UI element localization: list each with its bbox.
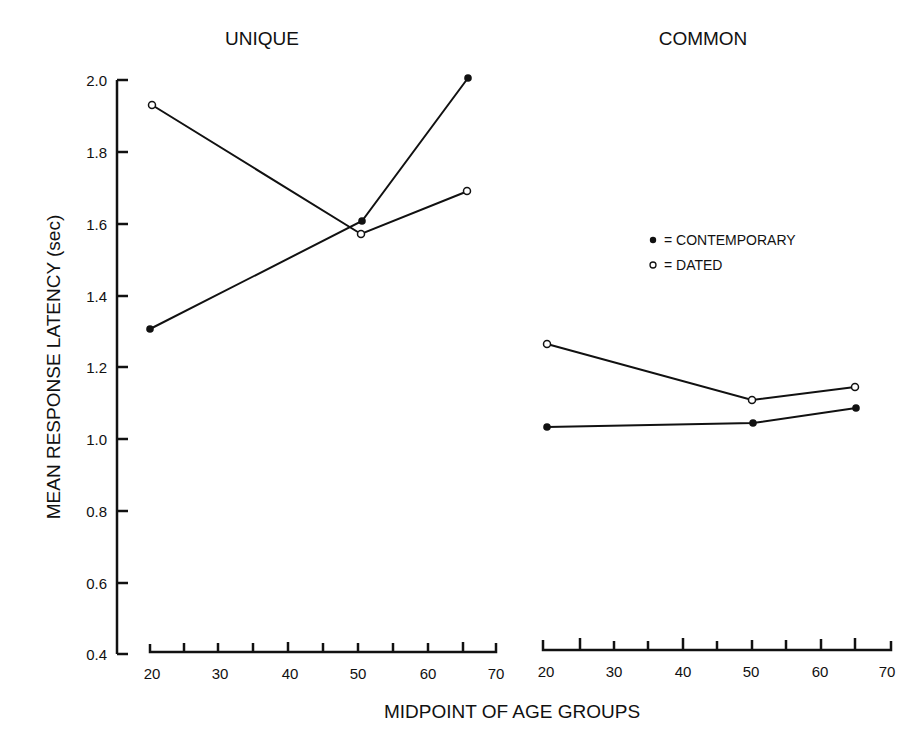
- x-tick-labels-common: 20 30 40 50 60 70: [538, 663, 896, 680]
- y-tick-label: 0.4: [86, 646, 107, 663]
- data-point: [852, 404, 860, 412]
- x-tick-labels-unique: 20 30 40 50 60 70: [144, 665, 505, 682]
- series-unique-contemporary: [146, 74, 472, 333]
- x-tick-label: 50: [350, 665, 367, 682]
- x-axis-common: [543, 638, 891, 650]
- legend-label-dated: = DATED: [664, 257, 722, 273]
- x-tick-label: 60: [420, 665, 437, 682]
- series-unique-dated: [149, 102, 471, 238]
- y-tick-label: 2.0: [86, 72, 107, 89]
- y-tick-label: 1.0: [86, 431, 107, 448]
- open-circle-icon: [650, 262, 656, 268]
- filled-circle-icon: [650, 237, 656, 243]
- data-point: [543, 423, 551, 431]
- legend-label-contemporary: = CONTEMPORARY: [664, 232, 796, 248]
- y-tick-label: 0.8: [86, 503, 107, 520]
- data-point: [749, 419, 757, 427]
- y-axis-label: MEAN RESPONSE LATENCY (sec): [43, 215, 64, 519]
- x-tick-label: 20: [144, 665, 161, 682]
- x-tick-label: 60: [812, 663, 829, 680]
- y-tick-label: 1.4: [86, 288, 107, 305]
- data-point: [358, 231, 365, 238]
- y-tick-labels: 2.0 1.8 1.6 1.4 1.2 1.0 0.8 0.6 0.4: [86, 72, 107, 663]
- x-tick-label: 40: [675, 663, 692, 680]
- x-axis-unique: [150, 642, 496, 652]
- panel-title-unique: UNIQUE: [225, 28, 299, 49]
- data-point: [852, 384, 859, 391]
- y-tick-label: 0.6: [86, 575, 107, 592]
- data-point: [149, 102, 156, 109]
- data-point: [146, 325, 154, 333]
- x-tick-label: 20: [538, 663, 555, 680]
- x-axis-label: MIDPOINT OF AGE GROUPS: [384, 701, 640, 722]
- x-tick-label: 30: [606, 663, 623, 680]
- data-point: [464, 74, 472, 82]
- series-common-contemporary: [543, 404, 860, 431]
- x-tick-label: 70: [879, 663, 896, 680]
- x-tick-label: 70: [488, 665, 505, 682]
- panel-title-common: COMMON: [659, 28, 748, 49]
- x-tick-label: 50: [743, 663, 760, 680]
- y-tick-label: 1.6: [86, 216, 107, 233]
- data-point: [544, 341, 551, 348]
- legend: = CONTEMPORARY = DATED: [650, 232, 796, 273]
- data-point: [358, 217, 366, 225]
- x-tick-label: 30: [212, 665, 229, 682]
- y-tick-label: 1.8: [86, 144, 107, 161]
- y-axis: [117, 80, 128, 654]
- data-point: [464, 188, 471, 195]
- chart-canvas: UNIQUE COMMON MEAN RESPONSE LATENCY (sec…: [0, 0, 921, 746]
- series-common-dated: [544, 341, 859, 404]
- data-point: [749, 397, 756, 404]
- x-tick-label: 40: [282, 665, 299, 682]
- y-tick-label: 1.2: [86, 359, 107, 376]
